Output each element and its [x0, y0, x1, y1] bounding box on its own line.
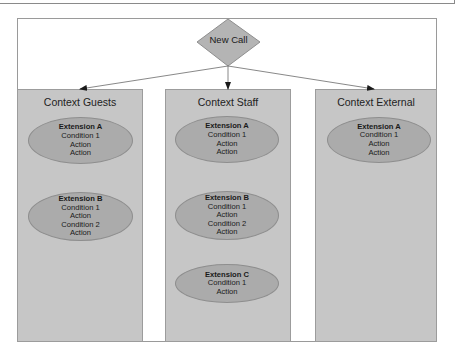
arrow-to-external	[228, 66, 374, 89]
connector-layer	[0, 0, 458, 360]
new-call-label: New Call	[197, 34, 260, 45]
arrow-to-guests	[80, 66, 228, 89]
